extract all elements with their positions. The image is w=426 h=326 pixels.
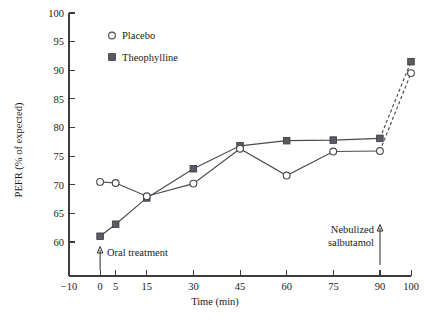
y-axis-ticks: [69, 13, 75, 242]
legend-label-theophylline: Theophylline: [122, 52, 178, 63]
y-tick-label: 70: [54, 180, 65, 191]
y-tick-label: 90: [54, 65, 65, 76]
placebo-line-dashed: [380, 73, 411, 151]
data-point-marker-filled-square: [408, 58, 415, 65]
x-axis-ticks: [69, 270, 411, 276]
y-tick-label: 60: [54, 237, 65, 248]
data-point-marker-open-circle: [112, 180, 119, 187]
data-point-marker-open-circle: [283, 172, 290, 179]
data-point-marker-open-circle: [237, 145, 244, 152]
x-axis-tick-labels: −10 0 5 15 30 45 60 75 90 100: [61, 281, 419, 292]
pefr-line-chart: 100 95 90 85 80 75 70 65 60 −10 0: [0, 0, 426, 326]
placebo-markers: [97, 70, 415, 200]
x-tick-label: 30: [188, 281, 199, 292]
annotation-oral-treatment-label: Oral treatment: [107, 247, 168, 258]
data-point-marker-open-circle: [408, 70, 415, 77]
data-point-marker-filled-square: [190, 165, 197, 172]
theophylline-line-dashed: [380, 62, 411, 139]
legend-marker-filled-square-icon: [109, 54, 116, 61]
annotation-oral-treatment: Oral treatment: [97, 247, 168, 271]
y-tick-label: 65: [54, 208, 65, 219]
placebo-line: [100, 149, 380, 197]
x-tick-label: 90: [375, 281, 386, 292]
data-point-marker-filled-square: [283, 137, 290, 144]
theophylline-line: [100, 138, 380, 236]
data-point-marker-open-circle: [330, 148, 337, 155]
data-point-marker-filled-square: [97, 233, 104, 240]
theophylline-markers: [97, 58, 415, 239]
chart-legend: Placebo Theophylline: [109, 30, 179, 63]
legend-marker-open-circle-icon: [109, 32, 116, 39]
data-point-marker-filled-square: [330, 137, 337, 144]
x-tick-label: 45: [235, 281, 246, 292]
y-tick-label: 95: [54, 36, 65, 47]
x-tick-label: 75: [328, 281, 339, 292]
figure-container: 100 95 90 85 80 75 70 65 60 −10 0: [0, 0, 426, 326]
data-point-marker-open-circle: [143, 193, 150, 200]
x-axis-title: Time (min): [191, 296, 239, 308]
x-tick-label: 15: [142, 281, 153, 292]
series-lines: [100, 62, 411, 237]
x-tick-label: 100: [403, 281, 419, 292]
data-point-marker-filled-square: [112, 221, 119, 228]
y-tick-label: 80: [54, 122, 65, 133]
data-point-marker-open-circle: [97, 178, 104, 185]
x-tick-label: 5: [113, 281, 118, 292]
data-point-marker-filled-square: [377, 135, 384, 142]
y-axis-title: PEFR (% of expected): [13, 102, 25, 197]
x-tick-label: −10: [61, 281, 77, 292]
y-axis-tick-labels: 100 95 90 85 80 75 70 65 60: [48, 8, 64, 248]
data-point-marker-open-circle: [190, 180, 197, 187]
legend-label-placebo: Placebo: [122, 30, 155, 41]
data-point-marker-open-circle: [377, 148, 384, 155]
y-tick-label: 75: [54, 151, 65, 162]
annotation-nebulized-line2: salbutamol: [328, 237, 374, 248]
x-tick-label: 60: [281, 281, 292, 292]
y-tick-label: 85: [54, 94, 65, 105]
y-tick-label: 100: [48, 8, 64, 19]
annotation-nebulized-salbutamol: Nebulized salbutamol: [328, 224, 383, 265]
x-tick-label: 0: [97, 281, 102, 292]
annotation-nebulized-line1: Nebulized: [331, 224, 375, 235]
